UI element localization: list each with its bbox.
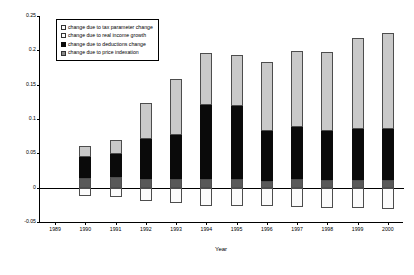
bar-segment-tax-parameter-change [170, 188, 182, 204]
legend-swatch-icon-price-indexation [61, 51, 66, 56]
bar-segment-deductions-change [110, 154, 122, 177]
bar-segment-price-indexation [321, 52, 333, 130]
bar-segment-price-indexation [79, 146, 91, 156]
bar-segment-real-income-growth [170, 179, 182, 188]
bar-group[interactable] [321, 16, 333, 222]
bar-segment-real-income-growth [352, 180, 364, 188]
chart-legend: change due to tax parameter change chang… [56, 19, 159, 61]
x-axis-tick-label: 1998 [322, 227, 334, 232]
legend-item-price-indexation: change due to price indexation [61, 49, 153, 58]
bar-segment-tax-parameter-change [321, 188, 333, 208]
bar-segment-price-indexation [200, 53, 212, 105]
bar-segment-deductions-change [140, 139, 152, 179]
bar-segment-deductions-change [261, 131, 273, 181]
x-axis-tick-mark [267, 222, 268, 225]
legend-item-tax-parameter-change: change due to tax parameter change [61, 23, 153, 32]
bar-segment-tax-parameter-change [382, 188, 394, 209]
bar-segment-real-income-growth [140, 179, 152, 188]
bar-segment-price-indexation [291, 51, 303, 127]
bar-group[interactable] [261, 16, 273, 222]
x-axis-tick-mark [55, 222, 56, 225]
bar-segment-price-indexation [261, 62, 273, 131]
bar-segment-real-income-growth [110, 177, 122, 187]
x-axis-tick-mark [176, 222, 177, 225]
bar-segment-tax-parameter-change [200, 188, 212, 206]
x-axis-tick-mark [327, 222, 328, 225]
bar-segment-tax-parameter-change [261, 188, 273, 206]
y-axis-tick-mark [37, 119, 40, 120]
x-axis-tick-mark [237, 222, 238, 225]
x-axis-tick-label: 1995 [231, 227, 243, 232]
zero-baseline [40, 188, 404, 189]
bar-segment-price-indexation [231, 55, 243, 106]
y-axis-tick-mark [37, 85, 40, 86]
legend-swatch-icon-real-income-growth [61, 33, 66, 38]
x-axis-tick-label: 1997 [291, 227, 303, 232]
x-axis-tick-label: 1992 [140, 227, 152, 232]
x-axis-tick-label: 1994 [201, 227, 213, 232]
bar-segment-real-income-growth [79, 178, 91, 188]
bar-segment-deductions-change [382, 129, 394, 181]
legend-label-tax-parameter-change: change due to tax parameter change [68, 25, 153, 30]
x-axis-tick-mark [297, 222, 298, 225]
x-axis-tick-label: 1996 [261, 227, 273, 232]
bar-segment-real-income-growth [321, 180, 333, 188]
x-axis-title: Year [39, 246, 403, 252]
x-axis-tick-mark [358, 222, 359, 225]
x-axis-tick-label: 1999 [352, 227, 364, 232]
x-axis-tick-mark [146, 222, 147, 225]
bar-segment-deductions-change [291, 127, 303, 179]
legend-swatch-icon-deductions-change [61, 42, 66, 47]
bar-segment-real-income-growth [382, 180, 394, 188]
bar-segment-price-indexation [382, 33, 394, 128]
bar-segment-price-indexation [110, 140, 122, 154]
stacked-bar-chart: 0.250.20.150.10.050-0.051989199019911992… [0, 0, 414, 275]
bar-segment-real-income-growth [291, 179, 303, 188]
legend-label-deductions-change: change due to deductions change [68, 42, 146, 47]
bar-segment-real-income-growth [261, 181, 273, 188]
bar-segment-deductions-change [200, 105, 212, 178]
legend-item-deductions-change: change due to deductions change [61, 40, 153, 49]
bar-segment-tax-parameter-change [79, 188, 91, 196]
x-axis-tick-label: 2000 [382, 227, 394, 232]
bar-group[interactable] [200, 16, 212, 222]
x-axis-tick-label: 1993 [170, 227, 182, 232]
x-axis-tick-label: 1991 [110, 227, 122, 232]
y-axis-tick-mark [37, 16, 40, 17]
bar-segment-real-income-growth [231, 179, 243, 187]
bar-segment-deductions-change [352, 129, 364, 180]
x-axis-tick-mark [388, 222, 389, 225]
x-axis-tick-mark [206, 222, 207, 225]
bar-segment-tax-parameter-change [352, 188, 364, 209]
bar-segment-real-income-growth [200, 179, 212, 188]
x-axis-tick-mark [85, 222, 86, 225]
bar-segment-deductions-change [321, 131, 333, 180]
bar-segment-tax-parameter-change [291, 188, 303, 207]
bar-group[interactable] [231, 16, 243, 222]
y-axis-tick-mark [37, 153, 40, 154]
bar-segment-price-indexation [352, 38, 364, 129]
y-axis-tick-mark [37, 50, 40, 51]
bar-segment-deductions-change [231, 106, 243, 179]
bar-group[interactable] [291, 16, 303, 222]
bar-segment-tax-parameter-change [231, 188, 243, 206]
legend-item-real-income-growth: change due to real income growth [61, 32, 153, 41]
bar-group[interactable] [352, 16, 364, 222]
bar-segment-deductions-change [79, 157, 91, 178]
bar-segment-price-indexation [170, 79, 182, 135]
x-axis-tick-label: 1990 [80, 227, 92, 232]
legend-swatch-icon-tax-parameter-change [61, 25, 66, 30]
bar-segment-price-indexation [140, 103, 152, 139]
bar-group[interactable] [382, 16, 394, 222]
bar-segment-tax-parameter-change [140, 188, 152, 201]
y-axis-tick-mark [37, 222, 40, 223]
x-axis-tick-mark [116, 222, 117, 225]
legend-label-price-indexation: change due to price indexation [68, 50, 139, 55]
bar-group[interactable] [170, 16, 182, 222]
legend-label-real-income-growth: change due to real income growth [68, 33, 146, 38]
bar-segment-deductions-change [170, 135, 182, 179]
x-axis-tick-label: 1989 [49, 227, 61, 232]
bar-segment-tax-parameter-change [110, 188, 122, 198]
